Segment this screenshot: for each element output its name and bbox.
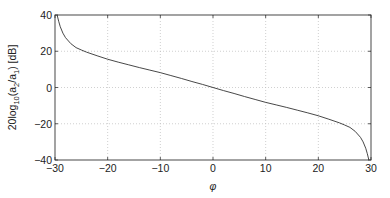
x-axis-label: φ [210, 180, 217, 192]
y-tick-label: 20 [40, 45, 52, 57]
x-tick-label: −20 [99, 162, 117, 174]
y-label-mid: (a [6, 87, 18, 96]
y-label-post: ) [dB] [6, 45, 18, 70]
x-tick-label: 20 [312, 162, 324, 174]
chart: −30−20−100102030 −40−2002040 φ 20log10(a… [0, 0, 390, 198]
x-tick-label: 10 [260, 162, 272, 174]
y-label-mid: /a [6, 74, 18, 83]
x-tick-label: 30 [365, 162, 377, 174]
y-tick-label: 0 [46, 82, 52, 94]
y-label-sub: 10 [12, 96, 21, 104]
x-tick-labels: −30−20−100102030 [46, 162, 377, 174]
y-tick-labels: −40−2002040 [34, 9, 52, 166]
y-label-pre: 20log [6, 104, 18, 130]
x-tick-label: −10 [151, 162, 169, 174]
y-tick-label: −40 [34, 154, 52, 166]
y-tick-label: −20 [34, 118, 52, 130]
y-axis-label: 20log10(a2/a1) [dB] [6, 45, 21, 131]
x-tick-label: 0 [210, 162, 216, 174]
y-tick-label: 40 [40, 9, 52, 21]
